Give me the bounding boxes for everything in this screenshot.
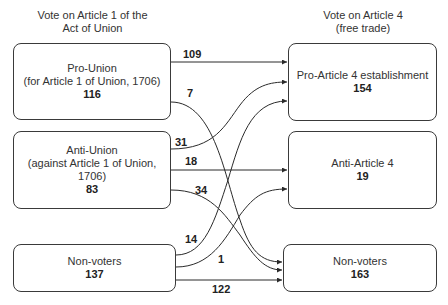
node-pro-article4: Pro-Article 4 establishment 154 <box>288 43 437 121</box>
flow-nonvoters-to-pro-art4 <box>176 101 287 255</box>
node-label: Pro-Article 4 establishment <box>297 69 428 82</box>
node-count: 163 <box>351 268 369 281</box>
flow-anti-union-to-nonvoters <box>171 190 282 270</box>
node-sublabel: (for Article 1 of Union, 1706) <box>24 75 161 88</box>
node-count: 137 <box>85 268 103 281</box>
node-anti-union: Anti-Union (against Article 1 of Union, … <box>13 131 171 209</box>
node-left-non-voters: Non-voters 137 <box>13 244 176 292</box>
node-sublabel-cont: 1706) <box>78 170 106 183</box>
node-count: 83 <box>86 183 98 196</box>
flow-label-34: 34 <box>195 184 207 196</box>
node-count: 19 <box>356 170 368 183</box>
node-label: Non-voters <box>68 255 122 268</box>
node-label: Anti-Union <box>66 144 117 157</box>
node-count: 154 <box>353 82 371 95</box>
node-sublabel: (against Article 1 of Union, <box>28 157 156 170</box>
node-label: Pro-Union <box>67 62 117 75</box>
flow-label-122: 122 <box>212 283 230 295</box>
flow-label-31: 31 <box>175 136 187 148</box>
node-pro-union: Pro-Union (for Article 1 of Union, 1706)… <box>13 43 171 120</box>
node-count: 116 <box>83 88 101 101</box>
node-label: Anti-Article 4 <box>331 157 393 170</box>
flow-label-14: 14 <box>185 233 197 245</box>
node-anti-article4: Anti-Article 4 19 <box>288 131 437 209</box>
node-label: Non-voters <box>333 255 387 268</box>
node-right-non-voters: Non-voters 163 <box>283 244 437 292</box>
flow-label-7: 7 <box>187 87 193 99</box>
flow-label-1: 1 <box>218 253 224 265</box>
flow-label-18: 18 <box>185 155 197 167</box>
flow-label-109: 109 <box>183 48 201 60</box>
flow-nonvoters-to-anti-art4 <box>176 189 287 267</box>
